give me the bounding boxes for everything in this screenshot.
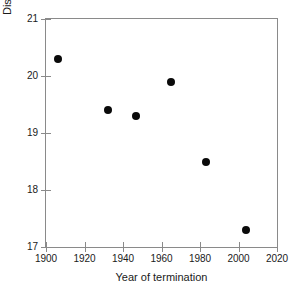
data-point <box>132 112 140 120</box>
x-axis-tick-label: 1980 <box>189 254 211 264</box>
x-axis-tick <box>162 247 163 252</box>
x-axis-tick-inner <box>162 242 163 247</box>
data-point <box>104 106 112 114</box>
y-axis-tick-label: 18 <box>27 185 38 195</box>
x-axis-tick-inner <box>46 242 47 247</box>
y-axis-tick-inner <box>46 133 51 134</box>
y-axis-tick-label: 21 <box>27 14 38 24</box>
x-axis-tick-label: 2000 <box>227 254 249 264</box>
y-axis-tick-label: 17 <box>27 242 38 252</box>
x-axis-tick <box>239 247 240 252</box>
y-axis-title: Distance from head of glacier (km) <box>0 0 14 46</box>
x-axis-tick-inner <box>85 242 86 247</box>
x-axis-tick <box>200 247 201 252</box>
y-axis-tick-label: 20 <box>27 71 38 81</box>
y-axis-tick-inner <box>46 76 51 77</box>
x-axis-title: Year of termination <box>45 272 278 283</box>
plot-area <box>46 19 277 247</box>
x-axis-tick-label: 1920 <box>73 254 95 264</box>
y-axis-tick-inner <box>46 19 51 20</box>
scatter-chart-figure: 17181920211900192019401960198020002020 D… <box>0 0 298 299</box>
data-point <box>202 158 210 166</box>
plot-frame: 17181920211900192019401960198020002020 <box>45 18 278 248</box>
y-axis-tick-inner <box>46 190 51 191</box>
data-point <box>167 78 175 86</box>
x-axis-tick <box>46 247 47 252</box>
x-axis-tick-inner <box>239 242 240 247</box>
x-axis-tick <box>85 247 86 252</box>
x-axis-tick <box>123 247 124 252</box>
x-axis-tick-label: 1940 <box>112 254 134 264</box>
x-axis-tick-label: 1960 <box>150 254 172 264</box>
x-axis-tick-label: 2020 <box>266 254 288 264</box>
x-axis-tick <box>277 247 278 252</box>
y-axis-tick-label: 19 <box>27 128 38 138</box>
data-point <box>54 55 62 63</box>
data-point <box>242 226 250 234</box>
x-axis-tick-label: 1900 <box>35 254 57 264</box>
x-axis-tick-inner <box>123 242 124 247</box>
x-axis-tick-inner <box>200 242 201 247</box>
x-axis-tick-inner <box>277 242 278 247</box>
